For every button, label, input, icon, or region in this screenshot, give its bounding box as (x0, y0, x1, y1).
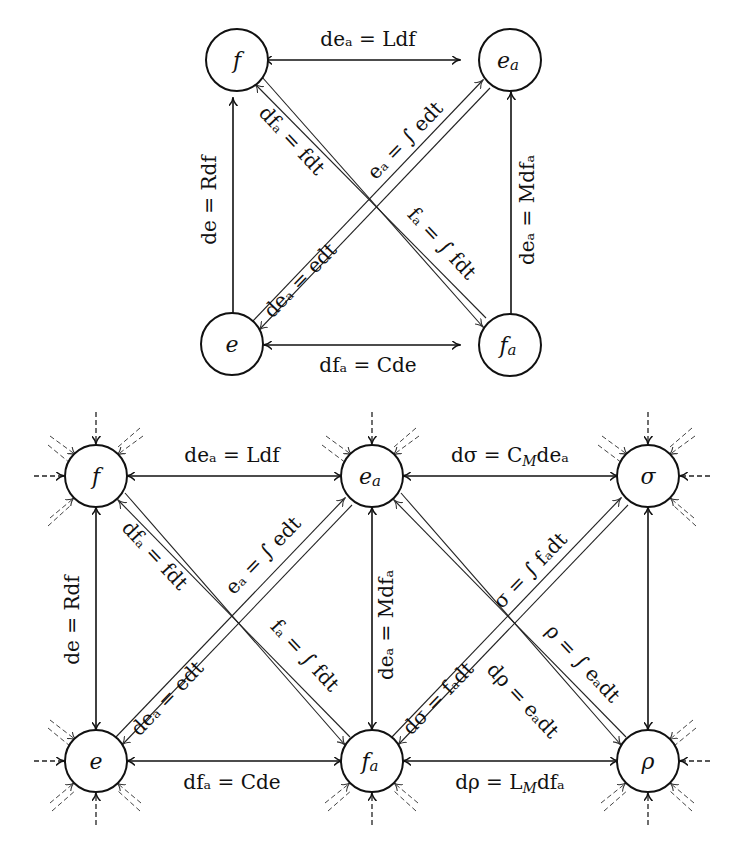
label-right-edge: deₐ = Mdfₐ (515, 155, 539, 266)
label-top-right-edge: dσ = CMdeₐ (451, 443, 569, 469)
top-diagram: f ea e fa deₐ = Ldf dfₐ = Cde de = Rdf d… (197, 27, 541, 377)
label-left-edge: de = Rdf (60, 574, 84, 665)
node-f: f (206, 29, 268, 91)
node-f: f (65, 445, 127, 507)
label-bottom-right-edge: dρ = LMdfₐ (455, 770, 565, 796)
node-fa: fa (479, 314, 541, 376)
label-diagL1-lower: deₐ = edt (126, 656, 209, 741)
label-diagR1-upper: σ = ∫ fₐdt (488, 527, 572, 613)
node-e: e (65, 730, 127, 792)
label-top-left-edge: deₐ = Ldf (184, 443, 281, 467)
label-diag1-lower: deₐ = edt (259, 238, 342, 323)
svg-text:σ: σ (640, 464, 656, 489)
node-ea: ea (341, 445, 403, 507)
node-sigma: σ (617, 445, 679, 507)
label-diagL1-upper: eₐ = ∫ edt (220, 511, 306, 599)
label-mid-edge: deₐ = Mdfₐ (374, 570, 398, 681)
label-diagR2-lower: dρ = eₐdt (482, 658, 564, 743)
node-ea: ea (479, 29, 541, 91)
label-bottom-edge: dfₐ = Cde (319, 353, 416, 377)
bottom-diagram: f ea σ e fa ρ deₐ = Ldf dσ = CMdeₐ dfₐ =… (34, 412, 710, 825)
label-left-edge: de = Rdf (197, 154, 221, 245)
label-diag2-upper: dfₐ = fdt (254, 101, 330, 180)
svg-text:ρ: ρ (641, 749, 655, 774)
label-diagR1-lower: dσ = fₐdt (397, 657, 478, 740)
node-fa: fa (341, 730, 403, 792)
svg-text:e: e (225, 332, 238, 357)
bond-graph-canvas: f ea e fa deₐ = Ldf dfₐ = Cde de = Rdf d… (0, 0, 745, 865)
label-diag1-upper: eₐ = ∫ edt (362, 96, 448, 184)
label-diag2-lower: fₐ = ∫ fdt (403, 202, 482, 284)
svg-text:e: e (89, 749, 102, 774)
node-rho: ρ (617, 730, 679, 792)
label-top-edge: deₐ = Ldf (320, 27, 417, 51)
node-e: e (201, 313, 263, 375)
label-bottom-left-edge: dfₐ = Cde (183, 770, 280, 794)
label-diagL2-lower: fₐ = ∫ fdt (266, 614, 345, 696)
